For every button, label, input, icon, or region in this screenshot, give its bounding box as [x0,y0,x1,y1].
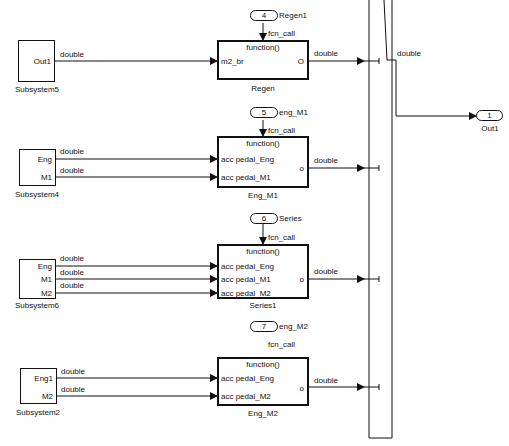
signal-label: double [60,268,84,277]
trigger-inport-name: eng_M1 [279,108,308,117]
outport-label: Eng1 [34,374,53,383]
outport-label: Eng [38,262,52,271]
trigger-inport-name: eng_M2 [279,322,308,331]
subsystem5-block[interactable]: Out1 [18,40,55,82]
fcn-call-label: fcn_call [268,233,295,242]
signal-label: double [60,50,84,59]
signal-label: double [314,376,338,385]
trigger-inport-5[interactable]: 5 [250,107,278,118]
outport-1[interactable]: 1 [476,110,503,121]
outport-label: O [298,57,304,66]
outport-name: Out1 [470,124,509,133]
fcn-call-label: fcn_call [268,29,295,38]
simulink-canvas: double double double double double doubl… [0,0,509,446]
subsystem2-name: Subsystem2 [9,408,67,417]
outport-label: M1 [41,173,52,182]
inport-label: acc pedal_Eng [221,374,274,383]
subsystem4-name: Subsystem4 [8,190,66,199]
trigger-inport-name: Regen1 [279,11,307,20]
eng-m2-name: Eng_M2 [217,409,309,418]
signal-label: double [61,385,85,394]
signal-label: double [314,156,338,165]
inport-label: acc pedal_Eng [221,155,274,164]
regen-function-block[interactable]: function() m2_br O [217,40,309,80]
outport-label: Out1 [34,57,51,66]
fcn-call-label: fcn_call [268,340,295,349]
trigger-inport-7[interactable]: 7 [250,321,278,332]
trigger-inport-6[interactable]: 6 [250,213,278,224]
merge-block[interactable] [369,0,393,439]
signal-label: double [314,267,338,276]
eng-m1-name: Eng_M1 [217,191,309,200]
function-label: function() [219,43,307,52]
inport-label: acc pedal_M1 [221,275,271,284]
eng-m1-function-block[interactable]: function() acc pedal_Eng acc pedal_M1 o [217,136,309,188]
trigger-inport-4[interactable]: 4 [250,10,278,21]
inport-label: acc pedal_M1 [221,173,271,182]
outport-label: o [300,275,304,284]
inport-label: acc pedal_M2 [221,289,271,298]
trigger-inport-name: Series [279,214,302,223]
function-label: function() [219,247,307,256]
fcn-call-label: fcn_call [268,126,295,135]
outport-label: M1 [41,275,52,284]
eng-m2-function-block[interactable]: function() acc pedal_Eng acc pedal_M2 o [217,357,309,406]
outport-label: M2 [42,392,53,401]
signal-label: double [61,367,85,376]
function-label: function() [219,139,307,148]
outport-label: M2 [41,289,52,298]
signal-label: double [60,254,84,263]
function-label: function() [219,360,307,369]
merge-output-label: double [397,49,421,58]
subsystem5-name: Subsystem5 [8,85,66,94]
series1-function-block[interactable]: function() acc pedal_Eng acc pedal_M1 ac… [217,244,309,299]
outport-label: o [300,164,304,173]
signal-label: double [60,281,84,290]
inport-label: m2_br [221,57,244,66]
outport-label: o [300,384,304,393]
subsystem6-name: Subsystem6 [8,301,66,310]
signal-label: double [60,166,84,175]
signal-label: double [60,147,84,156]
subsystem6-block[interactable]: Eng M1 M2 [19,259,56,299]
subsystem4-block[interactable]: Eng M1 [19,149,56,186]
inport-label: acc pedal_M2 [221,392,271,401]
regen-name: Regen [217,84,309,93]
inport-label: acc pedal_Eng [221,262,274,271]
signal-label: double [314,49,338,58]
subsystem2-block[interactable]: Eng1 M2 [20,368,57,404]
outport-label: Eng [38,155,52,164]
series1-name: Series1 [217,301,309,310]
